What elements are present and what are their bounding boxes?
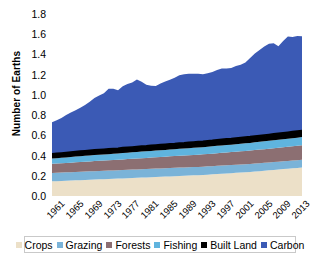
x-tick-2013: 2013	[289, 198, 312, 221]
y-tick-0.6: 0.6	[31, 129, 46, 141]
legend-swatch-icon	[57, 242, 63, 248]
y-tick-0.4: 0.4	[31, 150, 46, 162]
legend-item-forests[interactable]: Forests	[106, 239, 150, 251]
legend-swatch-icon	[16, 242, 22, 248]
legend-swatch-icon	[106, 242, 112, 248]
chart-legend: CropsGrazingForestsFishingBuilt LandCarb…	[24, 236, 296, 253]
x-tick-2005: 2005	[252, 198, 275, 221]
y-tick-1.2: 1.2	[31, 69, 46, 81]
x-tick-1985: 1985	[157, 198, 180, 221]
legend-item-carbon[interactable]: Carbon	[261, 239, 304, 251]
y-tick-0.8: 0.8	[31, 109, 46, 121]
legend-item-crops[interactable]: Crops	[16, 239, 53, 251]
legend-label: Carbon	[270, 239, 304, 251]
x-tick-1965: 1965	[63, 198, 86, 221]
x-tick-1973: 1973	[101, 198, 124, 221]
x-tick-1981: 1981	[138, 198, 161, 221]
legend-swatch-icon	[201, 242, 207, 248]
legend-item-built-land[interactable]: Built Land	[201, 239, 257, 251]
y-tick-0.0: 0.0	[31, 190, 46, 202]
x-tick-1989: 1989	[176, 198, 199, 221]
x-tick-2001: 2001	[233, 198, 256, 221]
legend-label: Forests	[115, 239, 150, 251]
y-tick-1.6: 1.6	[31, 28, 46, 40]
x-tick-1977: 1977	[120, 198, 143, 221]
legend-label: Crops	[25, 239, 53, 251]
legend-item-fishing[interactable]: Fishing	[154, 239, 197, 251]
x-tick-1993: 1993	[195, 198, 218, 221]
y-tick-0.2: 0.2	[31, 170, 46, 182]
y-tick-1.0: 1.0	[31, 89, 46, 101]
plot-area	[52, 14, 302, 196]
x-tick-1997: 1997	[214, 198, 237, 221]
x-tick-1969: 1969	[82, 198, 105, 221]
x-tick-1961: 1961	[44, 198, 67, 221]
y-axis-tick-labels: 0.00.20.40.60.81.01.21.41.61.8	[0, 14, 50, 196]
legend-label: Fishing	[163, 239, 197, 251]
y-tick-1.4: 1.4	[31, 48, 46, 60]
chart-container: Number of Earths 0.00.20.40.60.81.01.21.…	[0, 0, 316, 261]
legend-swatch-icon	[154, 242, 160, 248]
legend-swatch-icon	[261, 242, 267, 248]
y-tick-1.8: 1.8	[31, 8, 46, 20]
x-tick-2009: 2009	[270, 198, 293, 221]
x-axis-tick-labels: 1961196519691973197719811985198919931997…	[52, 198, 302, 236]
legend-label: Grazing	[66, 239, 103, 251]
legend-label: Built Land	[210, 239, 257, 251]
stacked-area-plot	[52, 14, 302, 196]
legend-item-grazing[interactable]: Grazing	[57, 239, 103, 251]
